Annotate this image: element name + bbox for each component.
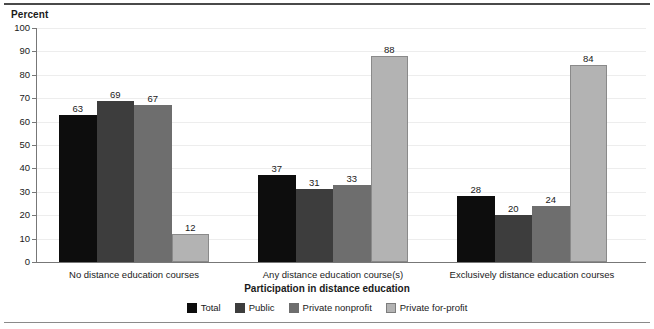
legend-swatch-icon: [289, 303, 299, 313]
legend-item[interactable]: Total: [187, 303, 221, 313]
bar[interactable]: 31: [296, 189, 334, 262]
y-axis-tick-label: 0: [25, 257, 30, 267]
legend-label: Private for-profit: [400, 303, 468, 313]
y-axis-tick-label: 30: [19, 187, 30, 197]
y-axis-tick-label: 100: [14, 23, 30, 33]
bar-value-label: 88: [384, 45, 395, 55]
y-axis-tick-label: 90: [19, 46, 30, 56]
bar-value-label: 37: [271, 164, 282, 174]
x-axis-line: [37, 262, 646, 263]
bar-group: 28202484Exclusively distance education c…: [457, 28, 607, 262]
bar[interactable]: 28: [457, 196, 495, 262]
y-axis-tick: [32, 192, 36, 193]
legend-item[interactable]: Public: [235, 303, 275, 313]
y-axis-tick: [32, 168, 36, 169]
bar-value-label: 84: [583, 54, 594, 64]
x-axis-title: Participation in distance education: [0, 283, 654, 294]
y-axis-tick: [32, 215, 36, 216]
y-axis-tick: [32, 122, 36, 123]
y-axis-tick-label: 60: [19, 117, 30, 127]
legend-item[interactable]: Private for-profit: [386, 303, 468, 313]
y-axis-title: Percent: [11, 9, 48, 20]
bar-value-label: 24: [545, 195, 556, 205]
bar-value-label: 28: [470, 185, 481, 195]
bar-value-label: 20: [508, 204, 519, 214]
chart-figure: Percent 0102030405060708090100 63696712N…: [0, 0, 654, 329]
y-axis-tick-label: 80: [19, 70, 30, 80]
y-axis-tick-label: 70: [19, 93, 30, 103]
legend-swatch-icon: [386, 303, 396, 313]
bar-value-label: 12: [185, 223, 196, 233]
bar[interactable]: 20: [495, 215, 533, 262]
y-axis-tick: [32, 75, 36, 76]
bar[interactable]: 84: [570, 65, 608, 262]
legend: TotalPublicPrivate nonprofitPrivate for-…: [0, 303, 654, 313]
bar[interactable]: 69: [97, 101, 135, 262]
y-axis-tick-label: 10: [19, 234, 30, 244]
bar-groups: 63696712No distance education courses373…: [37, 28, 646, 262]
legend-label: Public: [249, 303, 275, 313]
legend-label: Private nonprofit: [303, 303, 372, 313]
bar[interactable]: 63: [59, 115, 97, 262]
bar[interactable]: 24: [532, 206, 570, 262]
y-axis-tick-label: 50: [19, 140, 30, 150]
bar[interactable]: 33: [333, 185, 371, 262]
y-axis-tick-label: 20: [19, 210, 30, 220]
y-axis-tick: [32, 239, 36, 240]
y-axis-tick-label: 40: [19, 163, 30, 173]
bar-value-label: 31: [309, 178, 320, 188]
legend-label: Total: [201, 303, 221, 313]
bar-value-label: 67: [147, 94, 158, 104]
y-axis-tick: [32, 262, 36, 263]
bar-value-label: 33: [346, 174, 357, 184]
top-rule: [4, 3, 650, 5]
bar[interactable]: 37: [258, 175, 296, 262]
legend-item[interactable]: Private nonprofit: [289, 303, 372, 313]
y-axis-tick: [32, 98, 36, 99]
x-axis-category-label: No distance education courses: [69, 269, 199, 280]
plot-area: 0102030405060708090100 63696712No distan…: [37, 28, 646, 262]
y-axis-tick: [32, 51, 36, 52]
bar[interactable]: 67: [134, 105, 172, 262]
bar[interactable]: 12: [172, 234, 210, 262]
x-axis-category-label: Any distance education course(s): [263, 269, 403, 280]
bottom-rule: [4, 322, 650, 323]
y-axis-tick: [32, 28, 36, 29]
bar-group: 63696712No distance education courses: [59, 28, 209, 262]
bar[interactable]: 88: [371, 56, 409, 262]
bar-value-label: 63: [72, 104, 83, 114]
y-axis-tick: [32, 145, 36, 146]
bar-group: 37313388Any distance education course(s): [258, 28, 408, 262]
x-axis-category-label: Exclusively distance education courses: [450, 269, 615, 280]
legend-swatch-icon: [235, 303, 245, 313]
bar-value-label: 69: [110, 90, 121, 100]
legend-swatch-icon: [187, 303, 197, 313]
